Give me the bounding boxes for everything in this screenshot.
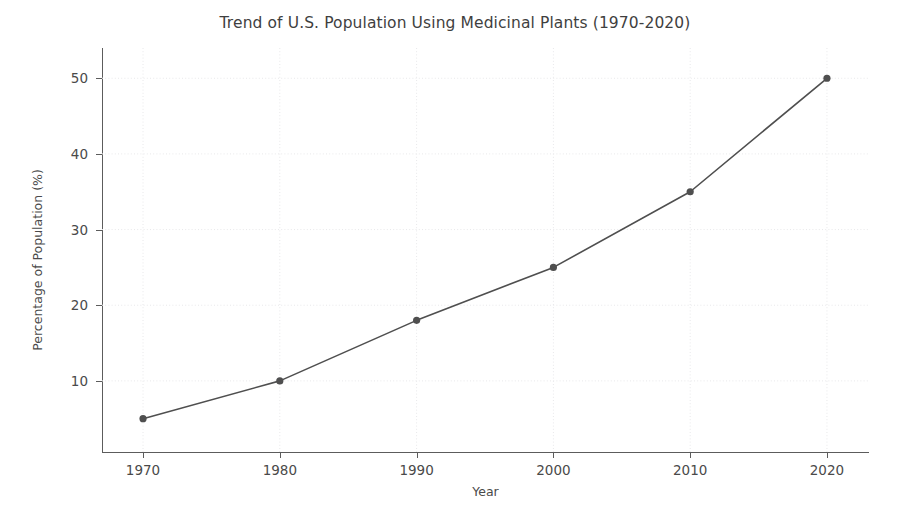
data-line [143,78,827,418]
x-tick-mark [827,453,828,458]
y-tick-mark [96,230,102,231]
y-tick-mark [96,381,102,382]
x-tick-mark [690,453,691,458]
y-axis-label: Percentage of Population (%) [30,110,45,410]
data-point-marker [687,188,694,195]
x-tick-mark [553,453,554,458]
chart-figure: Trend of U.S. Population Using Medicinal… [0,0,910,516]
data-point-marker [823,75,830,82]
y-tick-mark [96,154,102,155]
x-axis-label: Year [102,484,869,499]
x-tick-mark [417,453,418,458]
x-tick-mark [143,453,144,458]
y-tick-mark [96,305,102,306]
data-series-layer [102,48,868,452]
x-tick-label: 2010 [650,462,730,478]
plot-area [102,48,868,452]
x-axis-spine [102,452,869,453]
y-tick-label: 50 [26,70,88,86]
data-point-marker [276,377,283,384]
data-point-marker [413,317,420,324]
data-point-marker [139,415,146,422]
y-tick-mark [96,78,102,79]
x-tick-label: 2020 [787,462,867,478]
x-tick-label: 2000 [513,462,593,478]
chart-title: Trend of U.S. Population Using Medicinal… [0,14,910,32]
x-tick-mark [280,453,281,458]
x-tick-label: 1990 [377,462,457,478]
x-tick-label: 1970 [103,462,183,478]
data-point-marker [550,264,557,271]
x-tick-label: 1980 [240,462,320,478]
